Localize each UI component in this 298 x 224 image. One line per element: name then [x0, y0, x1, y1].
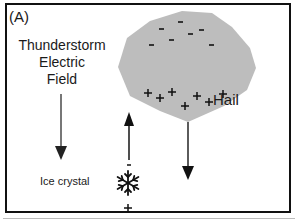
panel-label: (A) [9, 8, 29, 25]
hail-fall-arrow-icon [182, 122, 194, 180]
ice-crystal-positive-charge [124, 204, 132, 212]
electric-field-label: Thunderstorm Electric Field [0, 37, 124, 88]
snowflake-icon [116, 171, 140, 195]
field-label-line3: Field [0, 71, 124, 88]
charge-separation-diagram [0, 0, 298, 224]
field-label-line1: Thunderstorm [0, 37, 124, 54]
ice-crystal-label: Ice crystal [40, 175, 90, 187]
hail-label: Hail [213, 91, 239, 108]
field-label-line2: Electric [0, 54, 124, 71]
electric-field-arrow-icon [55, 94, 67, 160]
ice-crystal-arrow-icon [124, 112, 134, 160]
